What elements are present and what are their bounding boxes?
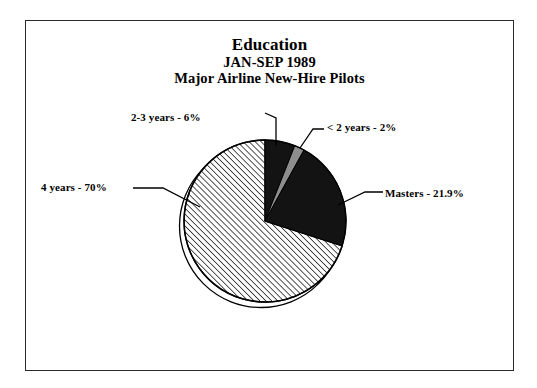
chart-subtitle-period: JAN-SEP 1989 [26, 54, 513, 70]
page-title: Education [26, 35, 513, 54]
slice-label-4-years: 4 years - 70% [41, 181, 107, 193]
slice-label-masters: Masters - 21.9% [385, 187, 464, 199]
chart-subtitle-population: Major Airline New-Hire Pilots [26, 70, 513, 86]
chart-title-block: Education JAN-SEP 1989 Major Airline New… [26, 35, 513, 87]
slice-label-less-than-2-years: < 2 years - 2% [327, 121, 396, 133]
slice-label-2-3-years: 2-3 years - 6% [131, 111, 201, 123]
